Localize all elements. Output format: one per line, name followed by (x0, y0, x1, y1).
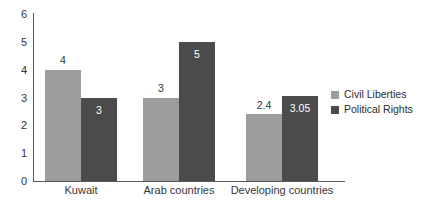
y-axis-tick-label: 2 (21, 120, 27, 131)
bar-value-label: 3 (81, 105, 117, 116)
legend-label-civil-liberties: Civil Liberties (344, 89, 406, 100)
bar-political-rights: 3 (81, 98, 117, 182)
bar-value-label: 5 (179, 49, 215, 60)
x-axis-line (33, 181, 345, 182)
bar-civil-liberties: 2.4 (246, 114, 282, 181)
legend-swatch-civil-liberties (331, 91, 339, 99)
y-axis-tick-label: 0 (21, 176, 27, 187)
y-axis-tick-label: 1 (21, 148, 27, 159)
bar-value-label: 2.4 (246, 100, 282, 111)
bar-value-label: 4 (45, 55, 81, 66)
bar-value-label: 3 (143, 83, 179, 94)
legend-swatch-political-rights (331, 106, 339, 114)
bar-group: 35 (143, 14, 215, 181)
bar-chart: 0123456 43352.43.05 KuwaitArab countries… (0, 0, 423, 207)
y-axis-tick-label: 4 (21, 64, 27, 75)
y-axis-tick-label: 6 (21, 9, 27, 20)
plot-area: 0123456 43352.43.05 (33, 14, 345, 181)
legend-item: Political Rights (331, 103, 413, 116)
y-axis-tick-label: 3 (21, 92, 27, 103)
category-label: Kuwait (64, 185, 97, 196)
bar-civil-liberties: 4 (45, 70, 81, 181)
bar-value-label: 3.05 (282, 103, 318, 114)
legend-label-political-rights: Political Rights (344, 104, 413, 115)
bar-political-rights: 3.05 (282, 96, 318, 181)
bar-political-rights: 5 (179, 42, 215, 181)
bar-group: 43 (45, 14, 117, 181)
bar-group: 2.43.05 (246, 14, 318, 181)
y-axis-tick-label: 5 (21, 36, 27, 47)
legend-item: Civil Liberties (331, 88, 413, 101)
bar-civil-liberties: 3 (143, 98, 179, 182)
chart-legend: Civil Liberties Political Rights (331, 88, 413, 118)
category-label: Arab countries (144, 185, 215, 196)
category-label: Developing countries (231, 185, 334, 196)
